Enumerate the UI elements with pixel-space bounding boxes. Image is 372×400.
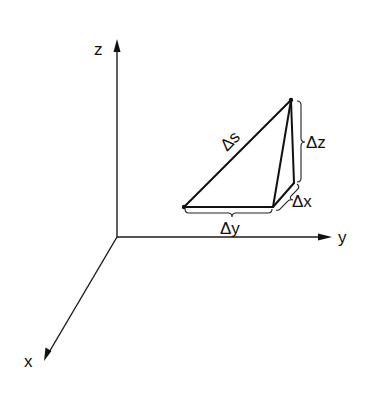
z-axis-label: z xyxy=(94,40,103,59)
x-axis xyxy=(48,237,117,354)
displacement-triangle xyxy=(182,98,294,209)
start-point xyxy=(182,205,186,209)
y-axis-label: y xyxy=(338,228,347,247)
x-axis-label: x xyxy=(24,352,33,371)
z-axis-arrow-icon xyxy=(114,39,121,52)
dz-label: Δz xyxy=(306,133,326,152)
coordinate-diagram: z y x Δs Δy Δz Δx xyxy=(0,0,372,400)
brace-dy xyxy=(185,209,272,217)
dy-label: Δy xyxy=(220,219,240,238)
edge-dz xyxy=(291,100,294,183)
brace-dz xyxy=(297,101,305,182)
end-point xyxy=(289,98,293,102)
y-axis-arrow-icon xyxy=(318,234,332,241)
dx-label: Δx xyxy=(292,192,312,211)
